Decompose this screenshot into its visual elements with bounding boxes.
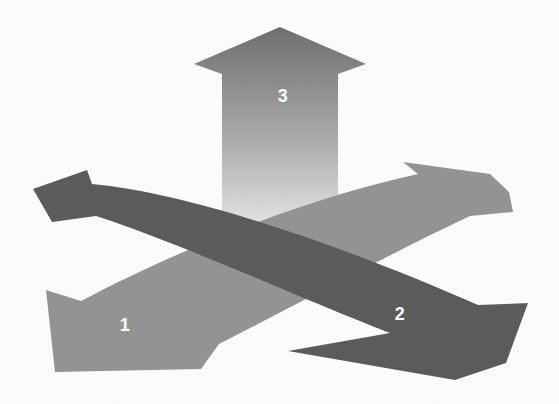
arrow-3-label: 3	[278, 86, 289, 106]
arrow-2-label: 2	[395, 304, 406, 324]
arrow-1-label: 1	[120, 315, 131, 335]
diagram-stage: 1 2 3	[0, 0, 559, 404]
three-arrows-diagram: 1 2 3	[0, 0, 559, 404]
